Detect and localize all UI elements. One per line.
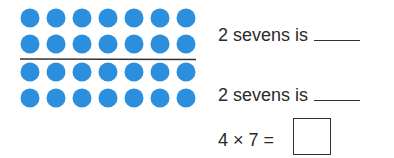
dot xyxy=(99,35,118,54)
multiplication-equation: 4 × 7 = xyxy=(218,131,274,149)
dot xyxy=(125,9,144,28)
dot xyxy=(177,35,196,54)
dot xyxy=(151,35,170,54)
dot xyxy=(47,89,66,108)
dot xyxy=(151,63,170,82)
dot xyxy=(21,89,40,108)
dot xyxy=(177,63,196,82)
dot xyxy=(47,9,66,28)
equation-text: 4 × 7 = xyxy=(218,130,274,150)
answer-blank[interactable] xyxy=(314,99,360,101)
dot xyxy=(47,35,66,54)
statement-top-half: 2 sevens is xyxy=(218,26,360,44)
answer-box[interactable] xyxy=(293,118,331,155)
dot-array xyxy=(0,0,210,120)
dot xyxy=(151,89,170,108)
statement-bottom-half: 2 sevens is xyxy=(218,86,360,104)
dot xyxy=(73,89,92,108)
dot xyxy=(99,9,118,28)
answer-blank[interactable] xyxy=(314,39,360,41)
dot xyxy=(21,63,40,82)
dot xyxy=(177,89,196,108)
dot xyxy=(99,89,118,108)
dot xyxy=(73,35,92,54)
dot xyxy=(21,35,40,54)
dot xyxy=(125,35,144,54)
dot xyxy=(21,9,40,28)
dividing-line xyxy=(20,59,196,60)
dot xyxy=(73,9,92,28)
dot xyxy=(73,63,92,82)
dot xyxy=(177,9,196,28)
dot xyxy=(151,9,170,28)
dot xyxy=(99,63,118,82)
statement-text: 2 sevens is xyxy=(218,25,308,45)
dot xyxy=(47,63,66,82)
dot xyxy=(125,63,144,82)
statement-text: 2 sevens is xyxy=(218,85,308,105)
dot xyxy=(125,89,144,108)
